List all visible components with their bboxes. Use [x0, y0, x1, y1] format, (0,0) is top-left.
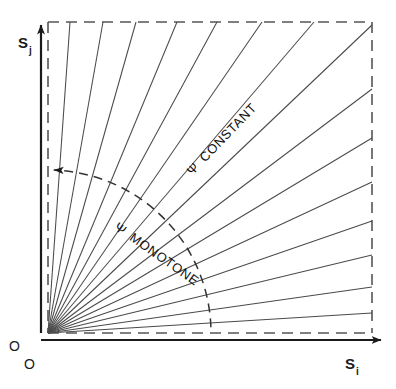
psi-constant-annotation: Ψ CONSTANT — [184, 100, 260, 178]
psi-monotone-symbol: Ψ — [112, 219, 130, 238]
constant-psi-ray — [48, 22, 136, 333]
psi-monotone-text: MONOTONE — [127, 230, 202, 289]
constant-psi-ray — [48, 22, 177, 333]
constant-psi-ray — [48, 89, 372, 333]
constant-psi-ray — [48, 138, 372, 333]
psi-constant-symbol: Ψ — [184, 160, 202, 178]
figure-canvas: S j S i O O Ψ CONSTANT Ψ MONOTONE — [0, 0, 396, 389]
y-axis-symbol: S — [18, 34, 28, 51]
constant-psi-ray — [48, 22, 314, 333]
constant-psi-ray — [48, 22, 70, 333]
x-axis-subscript: i — [356, 366, 359, 377]
constant-psi-ray — [48, 22, 262, 333]
origin-label-below: O — [24, 356, 35, 372]
y-axis-label: S j — [18, 34, 32, 56]
x-axis-label: S i — [345, 355, 359, 377]
constant-psi-ray — [48, 25, 372, 333]
psi-constant-text: CONSTANT — [196, 100, 259, 165]
origin-label-left: O — [9, 338, 20, 354]
diagram-svg: S j S i O O Ψ CONSTANT Ψ MONOTONE — [0, 0, 396, 389]
y-axis-subscript: j — [28, 45, 32, 56]
x-axis-symbol: S — [345, 355, 355, 372]
